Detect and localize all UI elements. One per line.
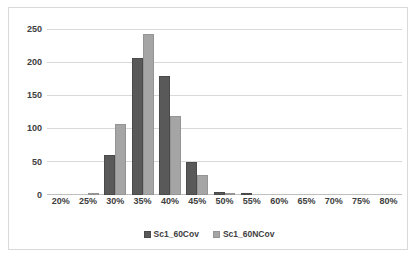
bar	[197, 175, 208, 195]
x-axis-tick-label: 20%	[47, 197, 74, 206]
bar-group	[184, 22, 211, 195]
bar-group	[47, 22, 74, 195]
bar-group	[238, 22, 265, 195]
x-axis-tick-label: 65%	[293, 197, 320, 206]
x-axis-tick-label: 55%	[238, 197, 265, 206]
bar	[225, 193, 236, 195]
bar-series-group	[47, 22, 402, 195]
y-axis-tick-label: 200	[27, 58, 42, 67]
bar-group	[266, 22, 293, 195]
bar	[214, 192, 225, 195]
legend-swatch-icon	[144, 231, 151, 238]
bar	[159, 76, 170, 195]
bar	[88, 193, 99, 195]
bar	[132, 58, 143, 195]
bar-group	[375, 22, 402, 195]
bar	[186, 162, 197, 195]
y-axis-tick-label: 0	[37, 190, 42, 199]
x-axis-tick-label: 25%	[74, 197, 101, 206]
x-axis-tick-label: 75%	[347, 197, 374, 206]
bar-group	[347, 22, 374, 195]
bar	[170, 116, 181, 195]
bar-group	[102, 22, 129, 195]
x-axis-tick-label: 40%	[156, 197, 183, 206]
y-axis-tick-label: 50	[32, 157, 42, 166]
chart-legend: Sc1_60CovSc1_60NCov	[9, 230, 409, 239]
y-axis-tick-label: 100	[27, 124, 42, 133]
x-axis-tick-labels: 20%25%30%35%40%45%50%55%60%65%70%75%80%	[47, 197, 402, 206]
legend-label: Sc1_60NCov	[223, 230, 275, 239]
bar	[241, 193, 252, 195]
legend-label: Sc1_60Cov	[154, 230, 199, 239]
x-axis-tick-label: 60%	[266, 197, 293, 206]
x-axis-tick-label: 80%	[375, 197, 402, 206]
bar	[143, 34, 154, 195]
bar	[104, 155, 115, 195]
y-axis-tick-label: 150	[27, 91, 42, 100]
legend-swatch-icon	[213, 231, 220, 238]
bar	[115, 124, 126, 195]
bar-group	[129, 22, 156, 195]
chart-container: 050100150200250 20%25%30%35%40%45%50%55%…	[8, 7, 408, 250]
y-axis-tick-label: 250	[27, 25, 42, 34]
bar-group	[156, 22, 183, 195]
x-axis-tick-label: 30%	[102, 197, 129, 206]
plot-area: 050100150200250	[47, 22, 402, 195]
bar-group	[320, 22, 347, 195]
x-axis-tick-label: 70%	[320, 197, 347, 206]
bar-group	[293, 22, 320, 195]
x-axis-tick-label: 45%	[184, 197, 211, 206]
bar-group	[74, 22, 101, 195]
legend-item[interactable]: Sc1_60NCov	[213, 230, 275, 239]
legend-item[interactable]: Sc1_60Cov	[144, 230, 199, 239]
x-axis-tick-label: 35%	[129, 197, 156, 206]
x-axis-tick-label: 50%	[211, 197, 238, 206]
bar-group	[211, 22, 238, 195]
